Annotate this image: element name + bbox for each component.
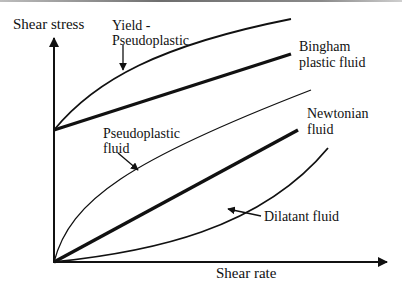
label-pseudoplastic-line2: fluid — [103, 141, 129, 156]
label-pseudoplastic-line1: Pseudoplastic — [103, 126, 180, 141]
curve-bingham-plastic — [54, 54, 291, 130]
arrow-dilatant-pointer — [228, 209, 261, 216]
curve-pseudoplastic — [54, 90, 311, 262]
x-axis-label: Shear rate — [216, 266, 276, 281]
curve-dilatant — [54, 148, 328, 262]
label-bingham-line2: plastic fluid — [299, 55, 366, 70]
label-yield-line2: Pseudoplastic — [112, 33, 189, 48]
label-dilatant: Dilatant fluid — [264, 209, 339, 224]
label-yield-line1: Yield - — [112, 18, 151, 33]
label-newtonian-line1: Newtonian — [307, 106, 368, 121]
curve-newtonian — [54, 130, 298, 262]
y-axis-label: Shear stress — [13, 17, 84, 32]
label-newtonian-line2: fluid — [307, 122, 333, 137]
label-bingham-line1: Bingham — [299, 39, 350, 54]
